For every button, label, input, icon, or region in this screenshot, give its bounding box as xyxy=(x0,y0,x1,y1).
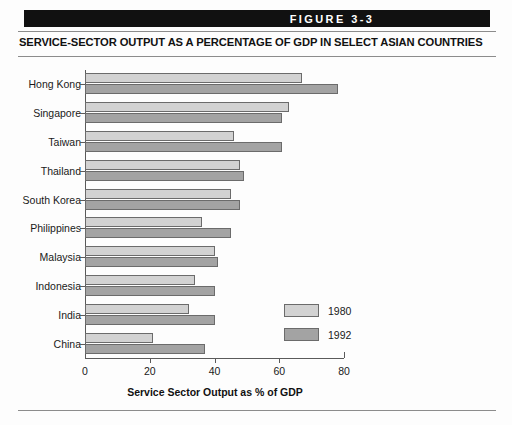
y-axis-category-label: South Korea xyxy=(0,194,81,206)
y-axis-category-label: Thailand xyxy=(0,165,81,177)
y-axis-tick xyxy=(80,228,85,229)
y-axis-tick xyxy=(80,315,85,316)
legend-label: 1992 xyxy=(328,329,351,341)
category-label-row: China xyxy=(0,344,81,356)
y-axis-tick xyxy=(80,171,85,172)
bar-1992 xyxy=(85,228,231,238)
bar-1980 xyxy=(85,246,215,256)
bar-1992 xyxy=(85,257,218,267)
y-axis-tick xyxy=(80,344,85,345)
y-axis-tick xyxy=(80,113,85,114)
bar-1980 xyxy=(85,131,234,141)
chart-legend: 19801992 xyxy=(284,302,351,350)
category-label-row: Indonesia xyxy=(0,286,81,298)
bar-1980 xyxy=(85,102,289,112)
bar-1992 xyxy=(85,142,282,152)
divider-middle xyxy=(18,56,496,57)
y-axis-tick xyxy=(80,84,85,85)
category-label-row: Philippines xyxy=(0,228,81,240)
x-axis-title: Service Sector Output as % of GDP xyxy=(0,386,430,398)
x-axis-tick-label: 20 xyxy=(144,365,156,377)
bar-1992 xyxy=(85,171,244,181)
figure-title: SERVICE-SECTOR OUTPUT AS A PERCENTAGE OF… xyxy=(19,36,499,48)
y-axis-category-label: India xyxy=(0,309,81,321)
bar-1992 xyxy=(85,286,215,296)
x-axis-tick-label: 60 xyxy=(273,365,285,377)
y-axis-category-label: China xyxy=(0,338,81,350)
y-axis-category-label: Malaysia xyxy=(0,251,81,263)
bar-1980 xyxy=(85,73,302,83)
x-axis-tick xyxy=(150,358,151,363)
bar-1980 xyxy=(85,189,231,199)
bar-1980 xyxy=(85,333,153,343)
legend-label: 1980 xyxy=(328,305,351,317)
x-axis-tick xyxy=(279,358,280,363)
x-axis-tick xyxy=(344,352,345,358)
y-axis-tick xyxy=(80,286,85,287)
y-axis-tick xyxy=(80,142,85,143)
divider-top xyxy=(18,31,496,32)
figure-banner: FIGURE 3-3 xyxy=(24,10,490,27)
bar-1992 xyxy=(85,200,240,210)
bar-1980 xyxy=(85,160,240,170)
x-axis-tick xyxy=(85,352,86,358)
plot-area: 020406080Hong KongSingaporeTaiwanThailan… xyxy=(0,0,512,425)
figure-number-label: FIGURE 3-3 xyxy=(290,13,375,25)
category-label-row: Hong Kong xyxy=(0,84,81,96)
bar-1992 xyxy=(85,315,215,325)
legend-item: 1992 xyxy=(284,326,351,343)
y-axis-category-label: Indonesia xyxy=(0,280,81,292)
category-label-row: India xyxy=(0,315,81,327)
category-label-row: Thailand xyxy=(0,171,81,183)
legend-swatch xyxy=(284,304,319,317)
y-axis-category-label: Singapore xyxy=(0,107,81,119)
divider-bottom xyxy=(18,410,496,411)
bar-1992 xyxy=(85,344,205,354)
bar-1980 xyxy=(85,304,189,314)
legend-item: 1980 xyxy=(284,302,351,319)
bar-1992 xyxy=(85,84,338,94)
legend-swatch xyxy=(284,328,319,341)
bar-1980 xyxy=(85,217,202,227)
y-axis-tick xyxy=(80,257,85,258)
bar-1992 xyxy=(85,113,282,123)
x-axis-tick-label: 40 xyxy=(209,365,221,377)
x-axis-line xyxy=(85,358,344,359)
category-label-row: Singapore xyxy=(0,113,81,125)
category-label-row: Malaysia xyxy=(0,257,81,269)
y-axis-line xyxy=(85,70,86,358)
bar-1980 xyxy=(85,275,195,285)
x-axis-tick-label: 80 xyxy=(338,365,350,377)
x-axis-tick xyxy=(215,358,216,363)
category-label-row: South Korea xyxy=(0,200,81,212)
y-axis-category-label: Philippines xyxy=(0,222,81,234)
bar-chart: 020406080Hong KongSingaporeTaiwanThailan… xyxy=(0,0,512,425)
figure-page: FIGURE 3-3 SERVICE-SECTOR OUTPUT AS A PE… xyxy=(0,0,512,425)
x-axis-tick-label: 0 xyxy=(82,365,88,377)
y-axis-category-label: Taiwan xyxy=(0,136,81,148)
y-axis-tick xyxy=(80,200,85,201)
category-label-row: Taiwan xyxy=(0,142,81,154)
y-axis-category-label: Hong Kong xyxy=(0,78,81,90)
